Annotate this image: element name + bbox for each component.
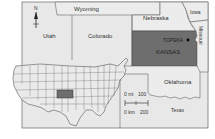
state-label-colorado: Colorado: [88, 33, 113, 39]
scale-miles-label: 0 mi: [124, 91, 133, 97]
capital-label-topeka: TOPEKA: [163, 37, 184, 43]
scale-km-value: 200: [140, 109, 149, 115]
state-label-nebraska: Nebraska: [143, 15, 169, 21]
state-label-wyoming: Wyoming: [74, 6, 99, 12]
state-label-oklahoma: Oklahoma: [164, 79, 192, 85]
capital-marker-icon: [187, 39, 190, 42]
svg-text:N: N: [34, 5, 38, 11]
scale-miles-value: 100: [138, 91, 147, 97]
state-label-missouri: Missouri: [198, 26, 204, 45]
kansas-locator-map: Wyoming Nebraska Iowa Utah Colorado N TO…: [0, 0, 215, 139]
state-wyoming: Wyoming: [55, 2, 160, 15]
state-label-iowa: Iowa: [190, 9, 201, 15]
scale-km-label: 0 km: [124, 109, 135, 115]
state-label-utah: Utah: [43, 33, 56, 39]
state-label-texas: Texas: [171, 107, 185, 113]
inset-kansas-highlight: [57, 90, 73, 98]
state-kansas: TOPEKA KANSAS: [132, 31, 197, 66]
state-label-kansas: KANSAS: [156, 49, 180, 55]
